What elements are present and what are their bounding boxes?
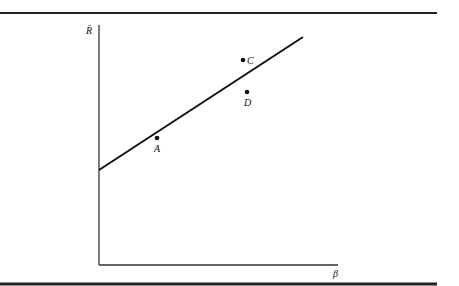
point-c-label: C	[247, 55, 254, 66]
y-axis-label: R̄	[85, 25, 92, 36]
security-market-line	[99, 37, 303, 170]
point-d-label: D	[243, 97, 252, 108]
x-axis-label: β	[332, 268, 338, 279]
diagram-canvas: R̄ β A D C	[0, 0, 459, 286]
point-d	[245, 90, 250, 95]
point-a-label: A	[153, 143, 161, 154]
point-a	[155, 136, 160, 141]
point-c	[241, 58, 246, 63]
